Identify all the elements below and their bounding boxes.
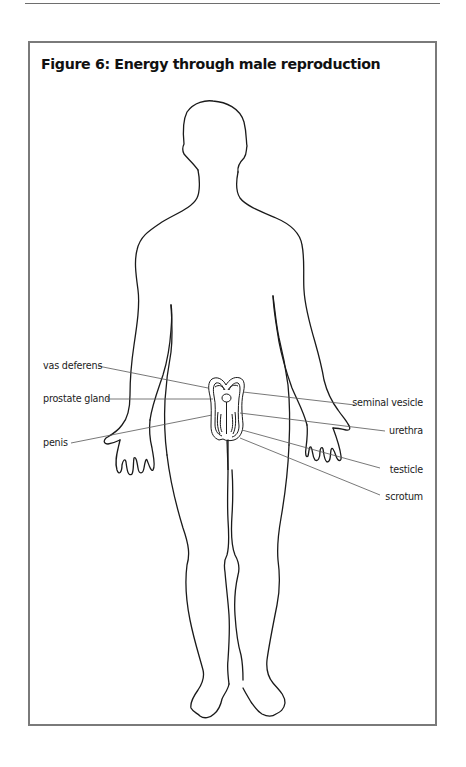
left-hand <box>116 420 154 475</box>
label-urethra: urethra <box>389 425 423 436</box>
leader-testicle <box>242 430 380 468</box>
label-penis: penis <box>43 437 68 448</box>
male-body-outline-diagram <box>0 0 466 767</box>
label-vas-deferens: vas deferens <box>43 360 102 371</box>
testicle-right <box>231 412 236 434</box>
reproductive-organs <box>209 377 245 470</box>
right-leg-inner <box>231 470 243 680</box>
right-hand <box>306 425 342 462</box>
right-leg-outer <box>243 445 289 716</box>
label-testicle: testicle <box>390 464 423 475</box>
label-prostate-gland: prostate gland <box>43 393 110 404</box>
head-outline <box>183 101 247 172</box>
label-seminal-vesicle: seminal vesicle <box>352 397 423 408</box>
label-scrotum: scrotum <box>385 491 423 502</box>
left-leg-outer <box>167 455 229 718</box>
left-leg-inner <box>224 440 229 684</box>
prostate-shape <box>222 394 231 402</box>
left-arm-inner <box>150 305 172 420</box>
leader-urethra <box>240 413 385 431</box>
testicle-left <box>217 412 222 434</box>
leader-vas-deferens <box>98 366 208 388</box>
right-torso-side <box>273 296 290 445</box>
seminal-vesicle-shape <box>215 385 238 390</box>
leader-penis <box>71 415 212 443</box>
left-arm-outer <box>104 170 199 444</box>
